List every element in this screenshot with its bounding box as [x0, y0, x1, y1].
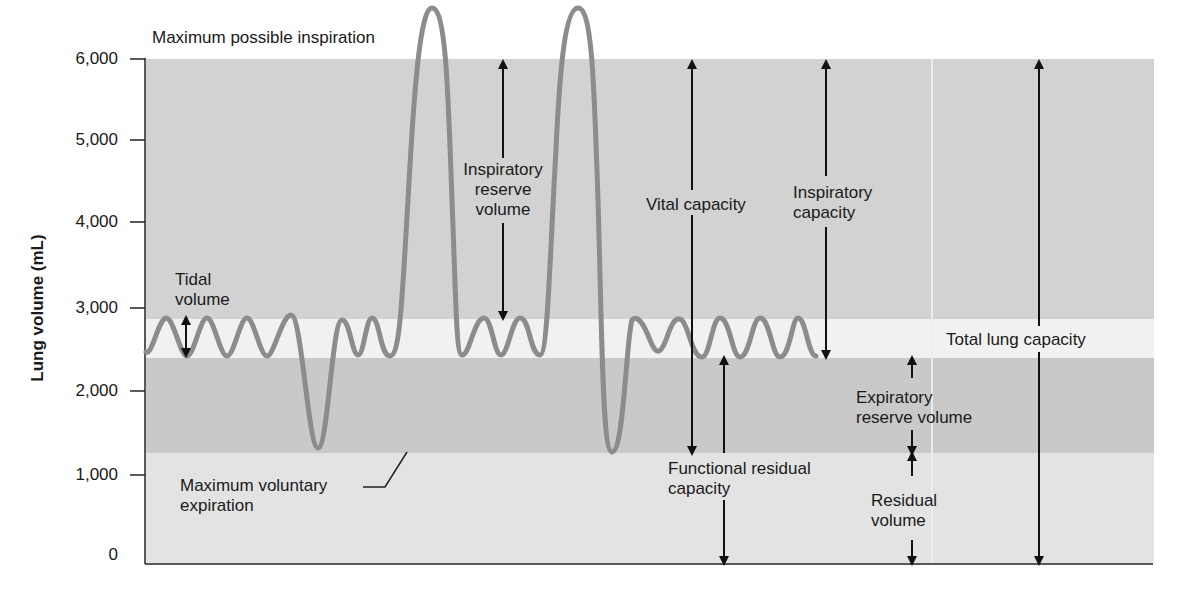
y-tick-4000: 4,000: [38, 212, 118, 232]
max-inspiration-note: Maximum possible inspiration: [152, 28, 375, 48]
y-tick-3000: 3,000: [38, 298, 118, 318]
irv-band: [146, 59, 1154, 319]
inspiratory-capacity-label: Inspiratorycapacity: [793, 183, 872, 223]
residual-volume-label: Residualvolume: [871, 491, 937, 531]
tidal-volume-label: Tidalvolume: [175, 270, 230, 310]
frc-label: Functional residualcapacity: [668, 459, 811, 499]
irv-label: Inspiratoryreservevolume: [453, 160, 553, 220]
y-tick-5000: 5,000: [38, 130, 118, 150]
y-axis-label: Lung volume (mL): [28, 208, 48, 408]
total-lung-capacity-label: Total lung capacity: [946, 330, 1086, 350]
max-voluntary-expiration-label: Maximum voluntaryexpiration: [180, 476, 327, 516]
y-tick-1000: 1,000: [38, 465, 118, 485]
vital-capacity-label: Vital capacity: [646, 195, 746, 215]
erv-label: Expiratoryreserve volume: [856, 388, 972, 428]
y-tick-6000: 6,000: [38, 49, 118, 69]
erv-band: [146, 358, 1154, 453]
y-tick-0: 0: [38, 545, 118, 565]
y-tick-2000: 2,000: [38, 381, 118, 401]
